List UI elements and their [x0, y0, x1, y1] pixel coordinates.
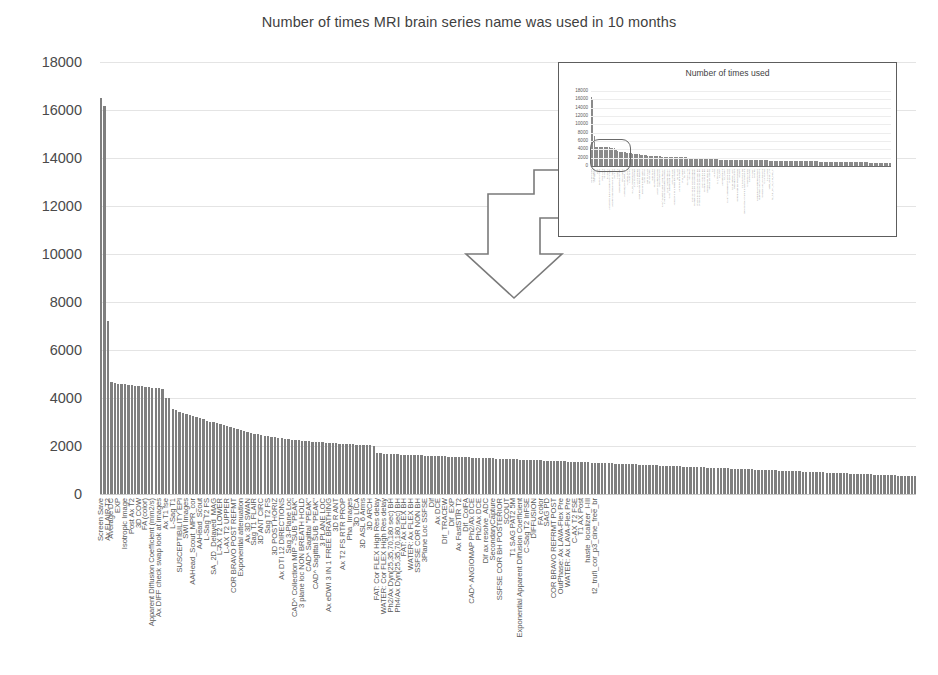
bar: [478, 458, 480, 494]
bar: [209, 422, 211, 494]
bar: [253, 434, 255, 494]
bar: [369, 445, 371, 494]
bar: [407, 455, 409, 494]
bar: [652, 465, 654, 494]
inset-y-tick-label: 10000: [575, 122, 588, 127]
x-label-slot: [856, 496, 858, 672]
inset-y-tick-labels: 1800016000140001200010000800060004000200…: [559, 91, 589, 166]
bar: [809, 472, 811, 494]
bar: [390, 454, 392, 494]
bar: [495, 459, 497, 494]
x-label-slot: [601, 496, 603, 672]
bar: [900, 476, 902, 494]
x-label-slot: L-Sag T2 FS: [206, 496, 208, 672]
x-label-slot: [877, 496, 879, 672]
y-tick-label: 0: [74, 486, 82, 502]
x-label-slot: Isotropic Image: [124, 496, 126, 672]
bar: [890, 475, 892, 494]
bar: [131, 385, 133, 494]
bar: [492, 458, 494, 494]
bar: [482, 458, 484, 494]
y-tick-label: 14000: [42, 150, 82, 166]
inset-y-tick-label: 16000: [575, 97, 588, 102]
x-label-slot: [625, 496, 627, 672]
bar: [761, 470, 763, 494]
x-label-slot: [628, 496, 630, 672]
bar: [815, 472, 817, 494]
bar: [257, 434, 259, 494]
bar: [287, 439, 289, 494]
bar: [298, 440, 300, 494]
x-label-slot: Pha_Images: [349, 496, 351, 672]
bar: [880, 475, 882, 494]
bar: [464, 457, 466, 494]
x-label-slot: [717, 496, 719, 672]
x-label-slot: [611, 496, 613, 672]
bar: [223, 425, 225, 494]
bar: [522, 460, 524, 494]
x-label-slot: [693, 496, 695, 672]
x-label-slot: C-Sag T2 InFSE: [526, 496, 528, 672]
x-label-slot: [669, 496, 671, 672]
x-label-slot: [727, 496, 729, 672]
bar: [512, 459, 514, 494]
x-label-slot: [805, 496, 807, 672]
bar: [764, 470, 766, 494]
x-label-slot: [866, 496, 868, 672]
inset-y-tick-label: 2000: [578, 155, 588, 160]
bar: [206, 421, 208, 494]
inset-y-tick-label: 18000: [575, 89, 588, 94]
x-label-slot: [604, 496, 606, 672]
x-label-slot: t2_trufi_cor_p3_cine_free_br: [594, 496, 596, 672]
x-label-slot: AAHead_Scout: [199, 496, 201, 672]
inset-y-tick-label: 0: [585, 164, 588, 169]
x-label-slot: CAD^ Sagittal SUB "PEAK": [315, 496, 317, 672]
bar: [819, 472, 821, 494]
bar: [597, 463, 599, 494]
bar: [437, 456, 439, 494]
x-label-slot: Exponential attenuation: [240, 496, 242, 672]
bar: [195, 417, 197, 494]
bar: [642, 465, 644, 494]
bar: [304, 441, 306, 494]
bar: [509, 459, 511, 494]
x-label-slot: Sag T2 FS: [267, 496, 269, 672]
bar: [757, 470, 759, 494]
x-label-slot: [815, 496, 817, 672]
bar: [539, 460, 541, 494]
bar: [914, 476, 916, 494]
bar: [352, 444, 354, 494]
x-label-slot: [645, 496, 647, 672]
y-tick-label: 12000: [42, 198, 82, 214]
chart-figure: Number of times MRI brain series name wa…: [0, 0, 938, 675]
x-label-slot: [781, 496, 783, 672]
x-label-slot: Screen Save: [100, 496, 102, 672]
bar: [601, 463, 603, 494]
inset-panel: Number of times used 1800016000140001200…: [558, 62, 897, 237]
x-label-slot: [771, 496, 773, 672]
x-label-slot: COR BRAVO REFRMT POST: [553, 496, 555, 672]
inset-y-tick-label: 6000: [578, 139, 588, 144]
bar: [420, 455, 422, 494]
bar: [172, 409, 174, 494]
bar: [117, 384, 119, 494]
bar: [604, 463, 606, 494]
x-label-slot: L-Sag T1: [172, 496, 174, 672]
x-label-slot: Ph2/Ax DCE: [478, 496, 480, 672]
x-label-slot: Dif ax resolve_ADC: [485, 496, 487, 672]
bar: [679, 466, 681, 494]
x-label-slot: [720, 496, 722, 672]
bar: [246, 432, 248, 494]
x-label-slot: [768, 496, 770, 672]
bar: [502, 459, 504, 494]
bar: [189, 415, 191, 494]
x-label-slot: [900, 496, 902, 672]
bar: [662, 466, 664, 494]
bar: [451, 457, 453, 494]
x-label-slot: DIFFUSION: [533, 496, 535, 672]
bar: [788, 471, 790, 494]
bar: [270, 437, 272, 494]
y-tick-label: 16000: [42, 102, 82, 118]
bar: [182, 413, 184, 494]
x-label-slot: [812, 496, 814, 672]
